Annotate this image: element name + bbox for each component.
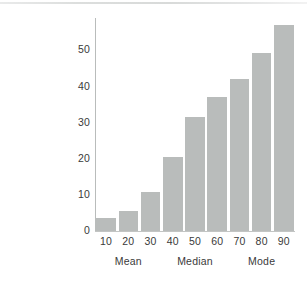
y-axis-tick-label: 30 — [62, 116, 90, 128]
annotation-label-median: Median — [160, 255, 230, 267]
x-axis-tick-label: 10 — [95, 235, 117, 247]
y-axis-tick-labels: 01020304050 — [62, 0, 90, 282]
x-axis-tick-label: 80 — [251, 235, 273, 247]
x-axis-tick-label: 30 — [140, 235, 162, 247]
bar-chart-plot: 01020304050 102030405060708090 MeanMedia… — [0, 0, 307, 282]
y-axis-tick-label: 0 — [62, 224, 90, 236]
bar — [141, 192, 161, 231]
bar — [119, 211, 139, 231]
chart-figure: 01020304050 102030405060708090 MeanMedia… — [0, 0, 307, 282]
annotation-labels: MeanMedianMode — [95, 255, 295, 269]
y-axis-tick-label: 10 — [62, 188, 90, 200]
bar-series — [95, 18, 295, 231]
x-axis-tick-label: 40 — [162, 235, 184, 247]
bar — [185, 117, 205, 231]
x-axis-line — [95, 231, 295, 232]
y-axis-tick-label: 40 — [62, 80, 90, 92]
bar — [207, 97, 227, 231]
x-axis-tick-labels: 102030405060708090 — [95, 235, 295, 249]
bar — [163, 157, 183, 231]
x-axis-tick-label: 50 — [184, 235, 206, 247]
bar — [230, 79, 250, 231]
annotation-label-mode: Mode — [227, 255, 297, 267]
bar — [252, 53, 272, 231]
bar — [96, 218, 116, 231]
y-axis-tick-label: 20 — [62, 152, 90, 164]
annotation-label-mean: Mean — [93, 255, 163, 267]
y-axis-tick-label: 50 — [62, 43, 90, 55]
x-axis-tick-label: 70 — [228, 235, 250, 247]
x-axis-tick-label: 90 — [273, 235, 295, 247]
x-axis-tick-label: 20 — [117, 235, 139, 247]
bar — [274, 25, 294, 231]
x-axis-tick-label: 60 — [206, 235, 228, 247]
